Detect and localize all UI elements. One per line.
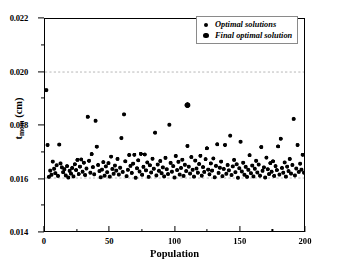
y-tick-mark: [38, 17, 44, 18]
x-axis-title: Population: [44, 248, 305, 259]
y-tick-mark-minor: [41, 44, 44, 45]
y-tick-label: 0.014: [10, 227, 28, 237]
y-axis-title: tmcm (cm): [13, 64, 24, 174]
legend-item-optimal-solutions: Optimal solutions: [201, 19, 292, 30]
x-tick-mark: [174, 226, 175, 232]
x-tick-label: 0: [42, 236, 46, 246]
legend-label: Optimal solutions: [215, 20, 276, 29]
x-tick-mark: [304, 226, 305, 232]
y-tick-mark: [38, 124, 44, 125]
x-tick-label: 200: [299, 236, 312, 246]
y-tick-mark-minor: [41, 205, 44, 206]
legend-marker-icon: [204, 23, 208, 27]
x-tick-label: 50: [105, 236, 114, 246]
scatter-points-canvas: [45, 19, 304, 231]
legend: Optimal solutions Final optimal solution: [196, 16, 298, 44]
legend-label: Final optimal solution: [215, 31, 292, 40]
x-tick-mark-minor: [76, 229, 77, 232]
x-tick-mark-minor: [141, 229, 142, 232]
x-tick-label: 100: [168, 236, 181, 246]
y-tick-label: 0.016: [10, 174, 28, 184]
y-axis-title-unit: (cm): [13, 97, 24, 120]
x-tick-mark: [43, 226, 44, 232]
y-tick-mark-minor: [41, 151, 44, 152]
legend-marker-icon: [203, 33, 208, 38]
y-tick-mark-minor: [41, 98, 44, 99]
y-axis-title-subscript: mcm: [17, 120, 26, 136]
y-tick-label: 0.022: [10, 13, 28, 23]
y-tick-mark: [38, 71, 44, 72]
x-tick-mark-minor: [272, 229, 273, 232]
plot-area: [44, 18, 305, 232]
x-tick-mark-minor: [207, 229, 208, 232]
x-tick-mark: [109, 226, 110, 232]
x-tick-label: 150: [233, 236, 246, 246]
x-tick-mark: [239, 226, 240, 232]
legend-item-final-optimal-solution: Final optimal solution: [201, 30, 292, 41]
y-axis-title-main: t: [13, 136, 24, 140]
scatter-plot-figure: 0.0140.0160.0180.0200.022 050100150200 P…: [0, 0, 337, 278]
y-tick-mark: [38, 178, 44, 179]
